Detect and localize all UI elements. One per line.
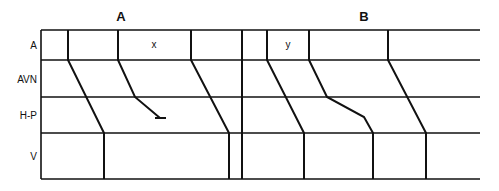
row-label-ventricle: V xyxy=(30,151,37,162)
row-label-his-purkinje: H-P xyxy=(20,110,38,121)
row-label-atrium: A xyxy=(30,40,37,51)
panel-b-beat-2-delayed xyxy=(309,30,373,179)
annotation-x: x xyxy=(152,39,157,50)
panel-a-beat-1 xyxy=(68,30,104,179)
panel-b-traces xyxy=(267,30,426,179)
grid-horizontal-lines xyxy=(41,30,480,179)
panel-a-traces xyxy=(68,30,229,179)
ladder-diagram: A B A AVN H-P V x y xyxy=(0,0,499,191)
panel-b-beat-1 xyxy=(267,30,304,179)
panel-b-title: B xyxy=(359,9,368,24)
panel-a-title: A xyxy=(116,9,126,24)
panel-b-beat-3 xyxy=(388,30,426,179)
panel-a-beat-3 xyxy=(191,30,229,179)
row-label-avn: AVN xyxy=(17,74,37,85)
annotation-y: y xyxy=(286,39,291,50)
